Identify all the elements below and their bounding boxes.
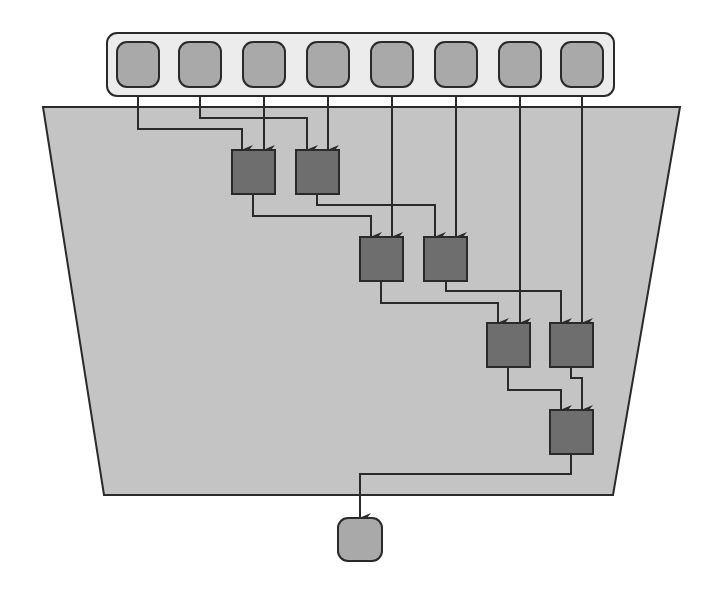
gate-node-B1 bbox=[360, 237, 403, 281]
gate-node-A2 bbox=[296, 150, 339, 194]
output-node bbox=[338, 518, 382, 561]
reduction-tree-diagram bbox=[0, 0, 711, 596]
gate-node-D bbox=[550, 410, 593, 454]
input-node-in7 bbox=[499, 42, 541, 87]
gate-node-B2 bbox=[424, 237, 467, 281]
output-node-layer bbox=[338, 518, 382, 561]
input-node-in2 bbox=[179, 42, 221, 87]
input-node-in3 bbox=[243, 42, 285, 87]
input-node-in4 bbox=[307, 42, 349, 87]
input-node-in8 bbox=[561, 42, 603, 87]
gate-node-C1 bbox=[487, 323, 530, 367]
input-node-in1 bbox=[117, 42, 159, 87]
input-node-in5 bbox=[371, 42, 413, 87]
gate-node-C2 bbox=[550, 323, 593, 367]
input-node-in6 bbox=[435, 42, 477, 87]
gate-node-A1 bbox=[232, 150, 275, 194]
